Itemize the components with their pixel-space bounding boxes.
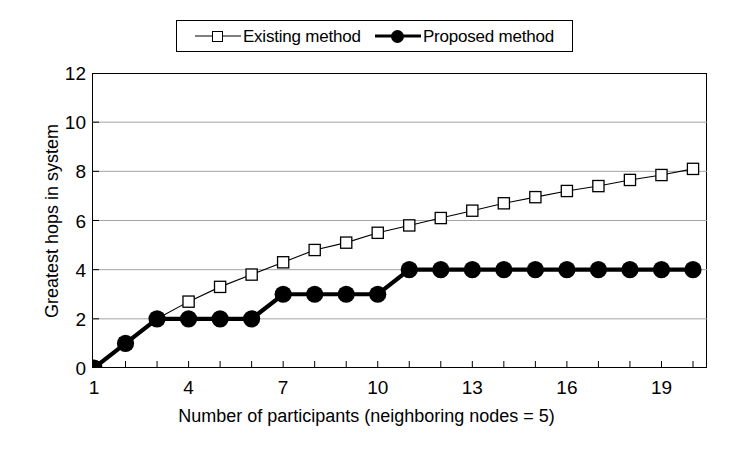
data-point-marker — [687, 163, 698, 174]
x-tick-label-13: 13 — [442, 378, 502, 397]
data-point-marker — [527, 261, 544, 278]
x-tick-label-1: 1 — [64, 378, 124, 397]
data-point-marker — [467, 205, 478, 216]
data-point-marker — [656, 169, 667, 180]
data-point-marker — [401, 261, 418, 278]
chart-legend: Existing method Proposed method — [176, 20, 573, 52]
x-tick-label-7: 7 — [253, 378, 313, 397]
chart-figure: Existing method Proposed method 12108642… — [0, 0, 733, 450]
data-point-marker — [180, 310, 197, 327]
data-point-marker — [341, 237, 352, 248]
data-point-marker — [243, 310, 260, 327]
x-tick-label-16: 16 — [537, 378, 597, 397]
data-point-marker — [561, 185, 572, 196]
data-point-marker — [148, 310, 165, 327]
data-point-marker — [278, 257, 289, 268]
legend-swatch-existing-method — [195, 28, 241, 44]
y-axis-title: Greatest hops in system — [43, 71, 61, 371]
data-point-marker — [338, 286, 355, 303]
data-point-marker — [275, 286, 292, 303]
chart-canvas — [92, 73, 707, 368]
data-point-marker — [593, 180, 604, 191]
data-point-marker — [215, 281, 226, 292]
data-point-marker — [246, 269, 257, 280]
data-point-marker — [684, 261, 701, 278]
data-point-marker — [183, 296, 194, 307]
data-point-marker — [372, 227, 383, 238]
data-point-marker — [432, 261, 449, 278]
data-point-marker — [404, 220, 415, 231]
x-axis-title: Number of participants (neighboring node… — [0, 407, 733, 425]
series-proposed-method — [92, 261, 702, 368]
x-axis-tick-labels: 14710131619 — [92, 378, 707, 402]
data-point-marker — [498, 198, 509, 209]
x-tick-label-10: 10 — [348, 378, 408, 397]
data-point-marker — [464, 261, 481, 278]
data-point-marker — [117, 335, 134, 352]
data-point-marker — [530, 192, 541, 203]
x-tick-label-19: 19 — [631, 378, 691, 397]
data-point-marker — [590, 261, 607, 278]
series-existing-method — [92, 163, 699, 368]
open-square-marker-icon — [212, 31, 223, 42]
data-point-marker — [624, 174, 635, 185]
data-point-marker — [558, 261, 575, 278]
data-point-marker — [495, 261, 512, 278]
data-point-marker — [621, 261, 638, 278]
filled-circle-marker-icon — [391, 30, 404, 43]
data-point-marker — [435, 212, 446, 223]
legend-item-proposed-method: Proposed method — [375, 28, 554, 45]
data-point-marker — [309, 244, 320, 255]
plot-area — [92, 73, 707, 368]
legend-item-existing-method: Existing method — [195, 28, 361, 45]
data-point-marker — [653, 261, 670, 278]
data-point-marker — [369, 286, 386, 303]
legend-label-existing-method: Existing method — [243, 28, 361, 45]
legend-swatch-proposed-method — [375, 28, 421, 44]
x-tick-label-4: 4 — [159, 378, 219, 397]
data-point-marker — [306, 286, 323, 303]
data-point-marker — [212, 310, 229, 327]
legend-label-proposed-method: Proposed method — [423, 28, 554, 45]
